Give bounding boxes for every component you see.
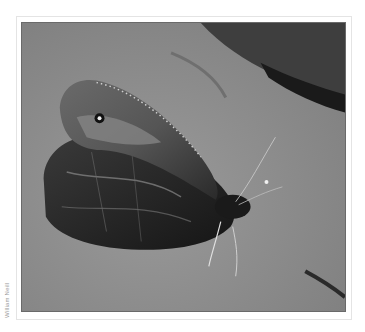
butterfly-photo [21,22,346,312]
butterfly-illustration [22,23,345,311]
photo-credit: William Neill [4,283,10,318]
